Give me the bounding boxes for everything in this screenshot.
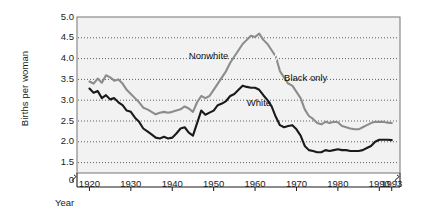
chart-figure: Births per woman Year 01.52.02.53.03.54.…: [0, 0, 439, 221]
series-label: White: [247, 97, 271, 108]
series-label: Black only: [284, 72, 327, 83]
series-label: Nonwhite: [189, 50, 229, 61]
chart-plot-area: [0, 0, 439, 221]
